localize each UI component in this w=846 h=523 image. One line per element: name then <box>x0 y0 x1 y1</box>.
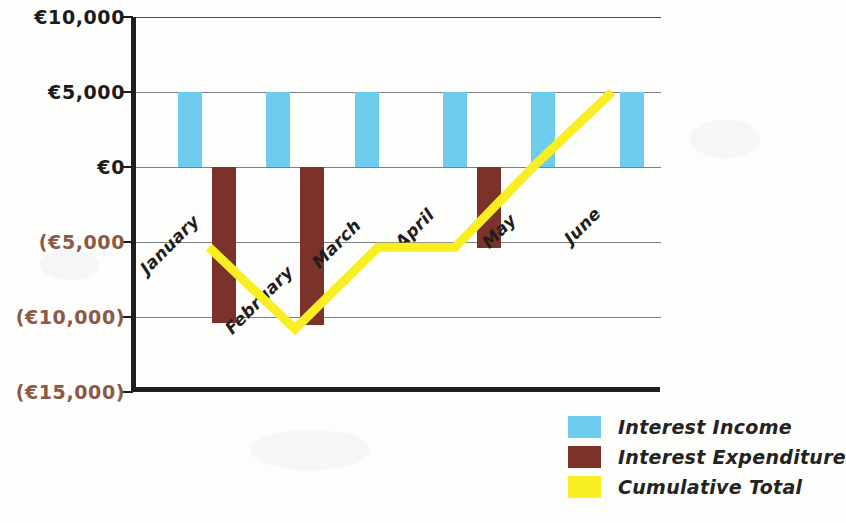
legend-label-income: Interest Income <box>618 416 792 438</box>
y-axis-label: (€5,000 <box>39 231 125 253</box>
legend-swatch-cumulative <box>568 476 601 498</box>
legend-swatch-income <box>568 416 601 438</box>
legend-item-expenditure: Interest Expenditure <box>568 442 846 472</box>
plot-frame <box>131 17 660 392</box>
legend-item-income: Interest Income <box>568 412 846 442</box>
legend-swatch-expenditure <box>568 446 601 468</box>
y-axis-label: €5,000 <box>48 81 125 103</box>
scan-artifact <box>690 120 760 158</box>
legend-label-cumulative: Cumulative Total <box>618 476 802 498</box>
y-axis-label: €0 <box>97 156 125 178</box>
y-axis-label: (€15,000) <box>16 381 125 403</box>
scan-artifact <box>250 430 370 470</box>
y-axis-label: €10,000 <box>34 6 125 28</box>
chart-legend: Interest Income Interest Expenditure Cum… <box>568 412 846 502</box>
y-axis-label: (€10,000) <box>16 306 125 328</box>
scan-artifact <box>40 250 100 280</box>
legend-label-expenditure: Interest Expenditure <box>618 446 846 468</box>
legend-item-cumulative: Cumulative Total <box>568 472 846 502</box>
